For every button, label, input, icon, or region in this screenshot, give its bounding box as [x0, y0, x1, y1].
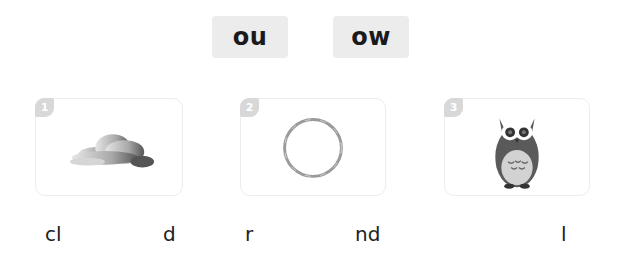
cloud-icon: [36, 99, 182, 195]
picture-card-3: 3: [444, 98, 590, 196]
letter-tile-ow[interactable]: ow: [333, 16, 409, 58]
word-2-end: nd: [355, 222, 380, 246]
word-1-start: cl: [45, 222, 62, 246]
picture-card-1: 1: [35, 98, 183, 196]
picture-card-2: 2: [240, 98, 386, 196]
circle-icon: [241, 99, 385, 195]
word-3-end: l: [561, 222, 567, 246]
owl-icon: [445, 99, 589, 195]
card-number-badge: 1: [35, 98, 54, 117]
card-number-badge: 3: [444, 98, 463, 117]
card-number-badge: 2: [240, 98, 259, 117]
letter-tile-ou[interactable]: ou: [212, 16, 288, 58]
word-2-start: r: [245, 222, 253, 246]
word-1-end: d: [163, 222, 176, 246]
